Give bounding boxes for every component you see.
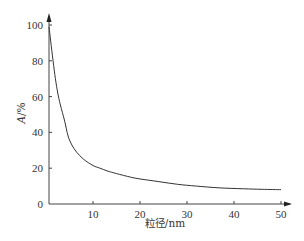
axes bbox=[47, 13, 293, 207]
x-axis-arrow-icon bbox=[284, 202, 292, 207]
y-tick-label: 20 bbox=[32, 162, 44, 174]
ticks: 0204060801001020304050 bbox=[27, 19, 288, 220]
y-tick-label: 100 bbox=[27, 19, 44, 31]
y-tick-label: 40 bbox=[32, 126, 44, 138]
x-tick-label: 50 bbox=[276, 208, 288, 220]
data-curve bbox=[49, 27, 281, 190]
y-tick-label: 80 bbox=[32, 55, 44, 67]
chart: 0204060801001020304050 粒径/nm A/% bbox=[0, 0, 304, 241]
y-axis-label: A/% bbox=[15, 102, 27, 124]
y-axis-label-suffix: /% bbox=[15, 102, 27, 116]
x-tick-label: 10 bbox=[88, 208, 100, 220]
x-axis-label: 粒径/nm bbox=[145, 217, 185, 229]
y-tick-label: 60 bbox=[32, 91, 44, 103]
x-tick-label: 40 bbox=[229, 208, 241, 220]
y-tick-label: 0 bbox=[38, 198, 44, 210]
y-axis-arrow-icon bbox=[47, 13, 52, 22]
